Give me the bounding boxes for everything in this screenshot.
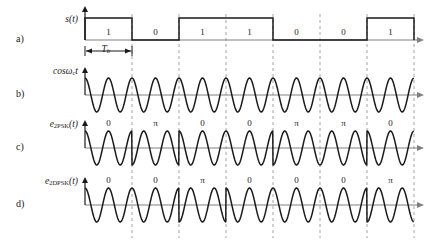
time-axis-arrow-row-1 [417, 92, 424, 98]
bit-label-2: 1 [188, 27, 218, 37]
bit-label-6: 1 [376, 27, 406, 37]
bit-label-5: 0 [329, 27, 359, 37]
dpsk-phase-label-6: π [376, 175, 406, 185]
psk-phase-label-4: π [282, 118, 312, 128]
tb-arrow-right [125, 48, 131, 53]
psk-phase-label-2: 0 [188, 118, 218, 128]
row-tag-a: a) [16, 33, 24, 44]
axis-label-row-3: e2DPSK(t) [0, 176, 78, 186]
bit-label-1: 0 [141, 27, 171, 37]
amplitude-axis-arrow-row-2 [82, 120, 88, 126]
bit-label-0: 1 [94, 27, 124, 37]
axis-label-row-2: e2PSK(t) [0, 119, 78, 129]
psk-phase-label-1: π [141, 118, 171, 128]
row-tag-c: c) [16, 141, 24, 152]
time-axis-arrow-row-2 [417, 145, 424, 151]
dpsk-phase-label-4: 0 [282, 175, 312, 185]
bit-label-4: 0 [282, 27, 312, 37]
dpsk-phase-label-5: 0 [329, 175, 359, 185]
psk-phase-label-3: 0 [235, 118, 265, 128]
amplitude-axis-arrow-row-0 [82, 6, 88, 12]
amplitude-axis-arrow-row-3 [82, 177, 88, 183]
axis-label-row-1: cosωct [0, 66, 78, 76]
bit-period-label: Tb [102, 44, 111, 54]
tb-arrow-left [86, 48, 92, 53]
psk-phase-label-6: 0 [376, 118, 406, 128]
dpsk-phase-label-3: 0 [235, 175, 265, 185]
row-tag-d: d) [16, 198, 24, 209]
time-axis-arrow-row-3 [417, 202, 424, 208]
dpsk-phase-label-1: 0 [141, 175, 171, 185]
row-tag-b: b) [16, 88, 24, 99]
psk-phase-label-0: 0 [94, 118, 124, 128]
dpsk-phase-label-2: π [188, 175, 218, 185]
bit-label-3: 1 [235, 27, 265, 37]
axis-label-row-0: s(t) [0, 14, 78, 24]
time-axis-arrow-row-0 [417, 37, 424, 43]
dpsk-phase-label-0: 0 [94, 175, 124, 185]
amplitude-axis-arrow-row-1 [82, 67, 88, 73]
psk-phase-label-5: π [329, 118, 359, 128]
